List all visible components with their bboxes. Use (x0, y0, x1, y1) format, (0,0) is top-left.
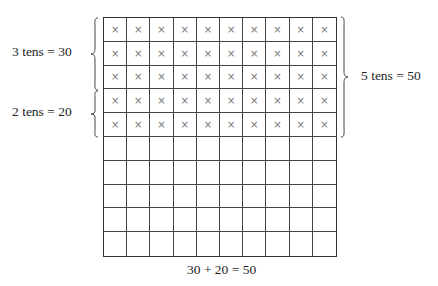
grid-cell-marked: × (127, 89, 150, 113)
brace-2-tens (90, 91, 100, 137)
grid-cell-marked: × (197, 42, 220, 66)
grid-cell-empty (290, 185, 313, 209)
grid-cell-marked: × (104, 42, 127, 66)
grid-cell-empty (243, 208, 266, 232)
grid-cell-marked: × (104, 18, 127, 42)
grid-cell-marked: × (104, 113, 127, 137)
hundred-grid: ××××××××××××××××××××××××××××××××××××××××… (103, 17, 337, 257)
grid-cell-empty (127, 185, 150, 209)
grid-cell-empty (243, 161, 266, 185)
brace-5-tens (340, 17, 350, 137)
grid-cell-empty (313, 232, 336, 256)
grid-cell-marked: × (290, 66, 313, 90)
grid-cell-empty (290, 137, 313, 161)
grid-cell-empty (197, 161, 220, 185)
grid-cell-empty (313, 161, 336, 185)
grid-cell-marked: × (243, 89, 266, 113)
grid-cell-empty (197, 232, 220, 256)
grid-cell-empty (150, 232, 173, 256)
grid-cell-marked: × (150, 42, 173, 66)
grid-cell-empty (220, 208, 243, 232)
equation: 30 + 20 = 50 (187, 262, 256, 278)
grid-cell-empty (174, 161, 197, 185)
grid-cell-marked: × (220, 42, 243, 66)
grid-cell-marked: × (243, 18, 266, 42)
grid-cell-marked: × (104, 66, 127, 90)
grid-cell-empty (127, 137, 150, 161)
grid-cell-marked: × (290, 89, 313, 113)
grid-cell-marked: × (174, 113, 197, 137)
grid-cell-empty (150, 137, 173, 161)
grid-cell-marked: × (150, 113, 173, 137)
grid-cell-empty (313, 208, 336, 232)
grid-cell-empty (243, 232, 266, 256)
grid-cell-empty (243, 137, 266, 161)
grid-cell-empty (266, 161, 289, 185)
grid-cell-marked: × (243, 42, 266, 66)
grid-cell-marked: × (127, 18, 150, 42)
grid-cell-marked: × (290, 42, 313, 66)
grid-cell-marked: × (243, 113, 266, 137)
grid-cell-marked: × (150, 89, 173, 113)
grid-cell-marked: × (220, 66, 243, 90)
grid-cell-marked: × (266, 66, 289, 90)
grid-cell-marked: × (127, 66, 150, 90)
grid-cell-empty (266, 232, 289, 256)
grid-cell-empty (150, 208, 173, 232)
grid-cell-marked: × (313, 89, 336, 113)
grid-cell-empty (104, 185, 127, 209)
grid-cell-marked: × (174, 89, 197, 113)
grid-cell-marked: × (197, 89, 220, 113)
grid-cell-marked: × (197, 66, 220, 90)
grid-cell-empty (104, 208, 127, 232)
grid-cell-empty (150, 185, 173, 209)
grid-cell-empty (313, 137, 336, 161)
grid-cell-empty (104, 137, 127, 161)
grid-cell-marked: × (290, 18, 313, 42)
grid-cell-empty (290, 232, 313, 256)
grid-cell-empty (127, 232, 150, 256)
grid-cell-empty (290, 208, 313, 232)
grid-cell-empty (220, 185, 243, 209)
grid-cell-marked: × (313, 66, 336, 90)
grid-cell-marked: × (266, 42, 289, 66)
grid-cell-marked: × (266, 113, 289, 137)
grid-cell-marked: × (243, 66, 266, 90)
grid-cell-marked: × (197, 113, 220, 137)
grid-cell-empty (266, 208, 289, 232)
grid-cell-empty (174, 208, 197, 232)
grid-cell-empty (266, 137, 289, 161)
grid-cell-marked: × (266, 89, 289, 113)
grid-cell-marked: × (104, 89, 127, 113)
grid-cell-empty (174, 137, 197, 161)
grid-cell-marked: × (313, 18, 336, 42)
grid-cell-empty (220, 161, 243, 185)
grid-cell-marked: × (174, 66, 197, 90)
grid-cell-marked: × (220, 89, 243, 113)
grid-cell-empty (197, 137, 220, 161)
grid-cell-marked: × (150, 18, 173, 42)
grid-cell-marked: × (220, 113, 243, 137)
label-5-tens: 5 tens = 50 (361, 68, 421, 84)
grid-cell-marked: × (290, 113, 313, 137)
grid-cell-empty (104, 161, 127, 185)
grid-cell-empty (220, 137, 243, 161)
grid-cell-empty (104, 232, 127, 256)
grid-cell-marked: × (313, 113, 336, 137)
grid-cell-empty (127, 208, 150, 232)
grid-cell-marked: × (174, 42, 197, 66)
grid-cell-empty (174, 185, 197, 209)
label-3-tens: 3 tens = 30 (12, 44, 72, 60)
grid-cell-empty (243, 185, 266, 209)
grid-cell-empty (197, 185, 220, 209)
label-2-tens: 2 tens = 20 (12, 104, 72, 120)
grid-cell-marked: × (174, 18, 197, 42)
grid-cell-marked: × (127, 113, 150, 137)
grid-cell-empty (220, 232, 243, 256)
grid-cell-marked: × (220, 18, 243, 42)
grid-cell-empty (127, 161, 150, 185)
grid-cell-marked: × (266, 18, 289, 42)
grid-cell-marked: × (150, 66, 173, 90)
grid-cell-marked: × (127, 42, 150, 66)
grid-cell-empty (290, 161, 313, 185)
